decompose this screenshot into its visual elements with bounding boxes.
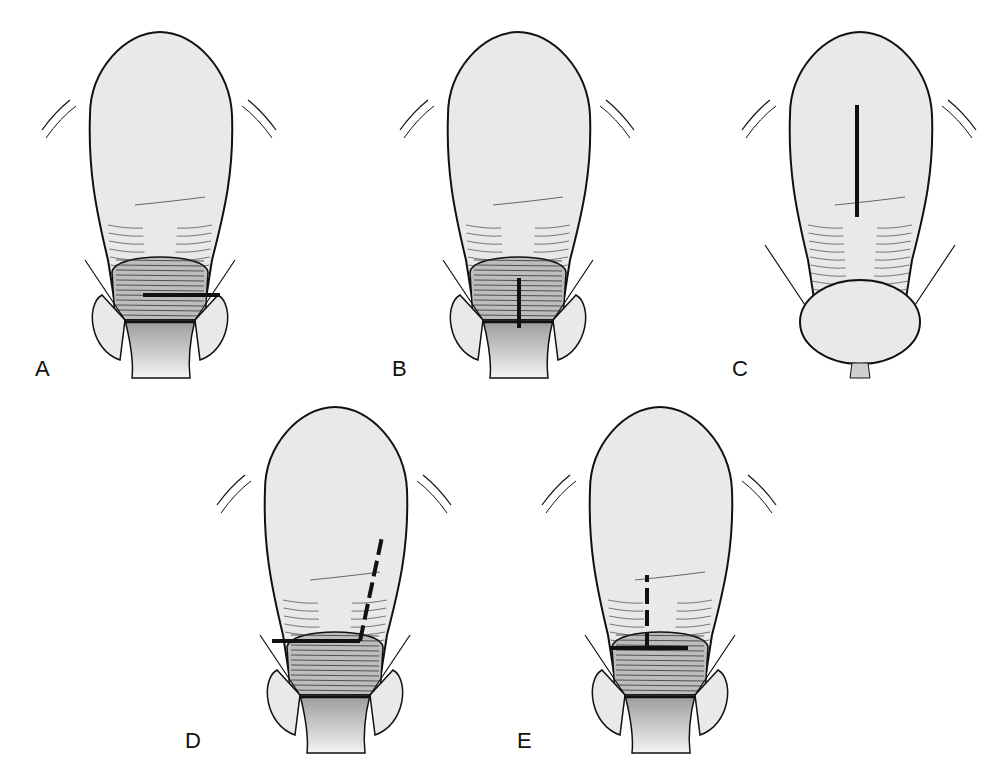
uterus-panel-c <box>730 20 989 370</box>
uterus-drawing <box>530 395 790 745</box>
uterus-panel-a <box>30 20 290 370</box>
uterus-drawing <box>388 20 648 370</box>
panel-label-c: C <box>732 358 748 380</box>
uterus-panel-d <box>205 395 465 745</box>
uterus-drawing <box>730 20 989 370</box>
panel-label-b: B <box>392 358 407 380</box>
panel-label-a: A <box>35 358 50 380</box>
uterus-drawing <box>30 20 290 370</box>
uterus-panel-b <box>388 20 648 370</box>
panel-label-e: E <box>517 730 532 752</box>
uterus-panel-e <box>530 395 790 745</box>
uterus-drawing <box>205 395 465 745</box>
panel-label-d: D <box>185 730 201 752</box>
